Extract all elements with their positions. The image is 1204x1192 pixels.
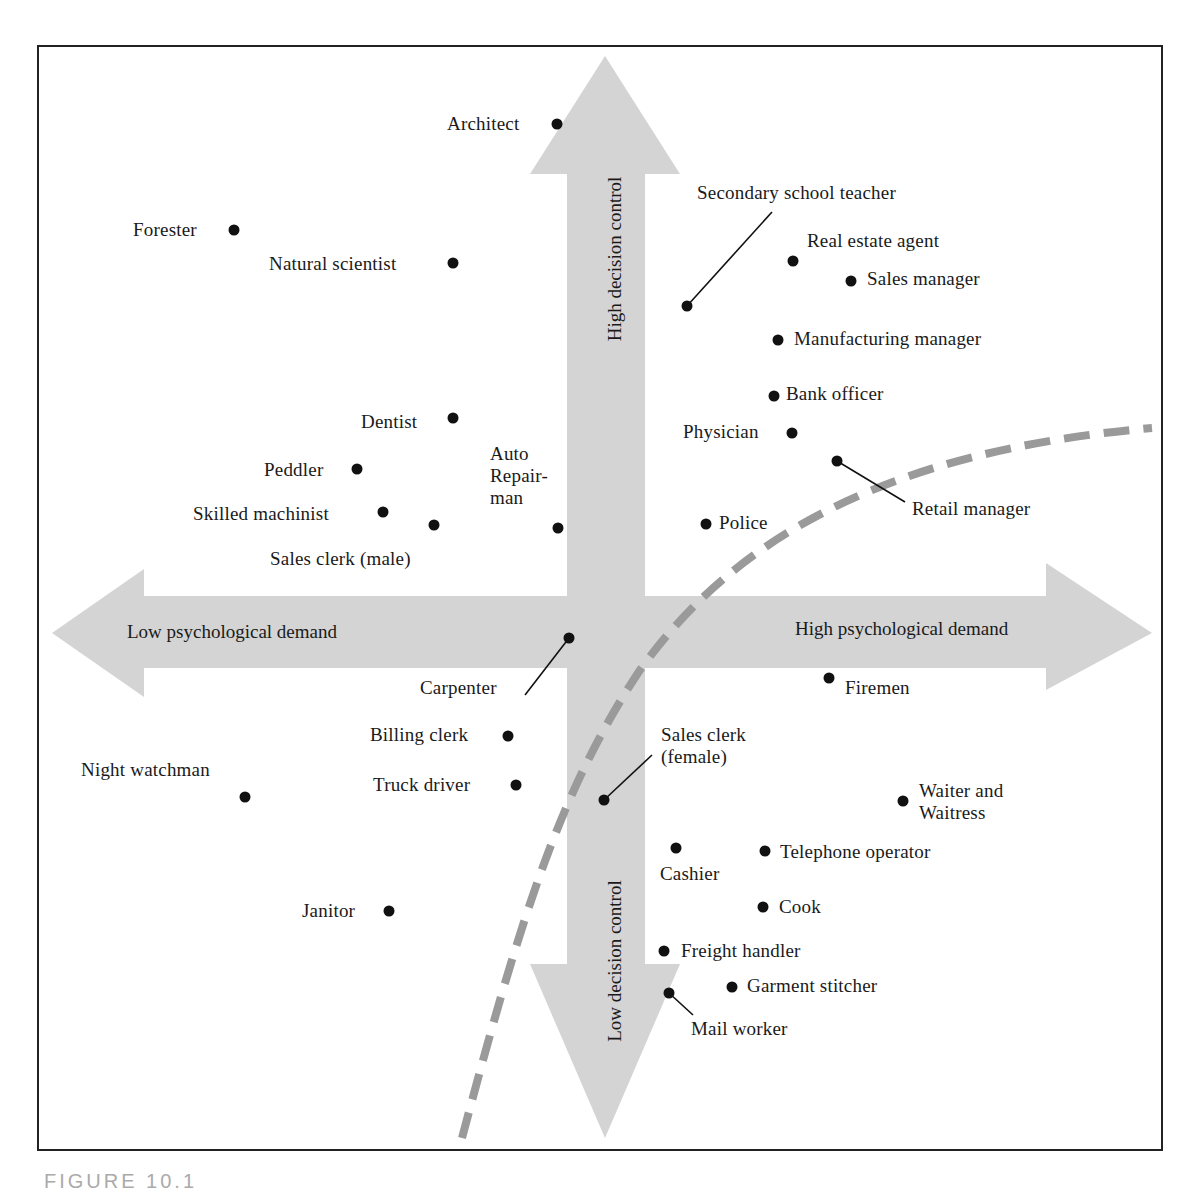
axis-label-low-decision-control: Low decision control (604, 861, 626, 1061)
label-cook: Cook (779, 896, 821, 918)
label-police: Police (719, 512, 768, 534)
point-janitor (384, 906, 395, 917)
point-police (701, 519, 712, 530)
label-architect: Architect (447, 113, 519, 135)
point-sales-clerk-male (429, 520, 440, 531)
label-peddler: Peddler (264, 459, 323, 481)
label-billing-clerk: Billing clerk (370, 724, 468, 746)
point-mail-worker (664, 988, 675, 999)
label-manufacturing-manager: Manufacturing manager (794, 328, 981, 350)
point-waiter-and-waitress (898, 796, 909, 807)
point-firemen (824, 673, 835, 684)
label-firemen: Firemen (845, 677, 910, 699)
label-auto-repair-man: Auto Repair- man (490, 443, 548, 509)
point-architect (552, 119, 563, 130)
point-sales-clerk-female (599, 795, 610, 806)
point-garment-stitcher (727, 982, 738, 993)
label-night-watchman: Night watchman (81, 759, 210, 781)
label-skilled-machinist: Skilled machinist (193, 503, 329, 525)
point-cashier (671, 843, 682, 854)
point-freight-handler (659, 946, 670, 957)
label-retail-manager: Retail manager (912, 498, 1030, 520)
label-waiter-and-waitress: Waiter and Waitress (919, 780, 1003, 824)
label-garment-stitcher: Garment stitcher (747, 975, 877, 997)
label-janitor: Janitor (302, 900, 355, 922)
label-freight-handler: Freight handler (681, 940, 801, 962)
point-sales-manager (846, 276, 857, 287)
point-retail-manager (832, 456, 843, 467)
label-forester: Forester (133, 219, 197, 241)
label-mail-worker: Mail worker (691, 1018, 788, 1040)
point-truck-driver (511, 780, 522, 791)
label-telephone-operator: Telephone operator (780, 841, 931, 863)
label-physician: Physician (683, 421, 759, 443)
point-billing-clerk (503, 731, 514, 742)
point-night-watchman (240, 792, 251, 803)
label-truck-driver: Truck driver (373, 774, 470, 796)
point-peddler (352, 464, 363, 475)
leader-line-secondary-school-teacher (687, 212, 772, 306)
point-dentist (448, 413, 459, 424)
label-natural-scientist: Natural scientist (269, 253, 396, 275)
point-telephone-operator (760, 846, 771, 857)
point-forester (229, 225, 240, 236)
label-sales-manager: Sales manager (867, 268, 980, 290)
label-secondary-school-teacher: Secondary school teacher (697, 182, 896, 204)
label-sales-clerk-male: Sales clerk (male) (270, 548, 411, 570)
point-secondary-school-teacher (682, 301, 693, 312)
point-auto-repair-man (553, 523, 564, 534)
point-cook (758, 902, 769, 913)
label-sales-clerk-female: Sales clerk (female) (661, 724, 746, 768)
point-carpenter (564, 633, 575, 644)
axis-label-low-psychological-demand: Low psychological demand (127, 621, 337, 643)
label-cashier: Cashier (660, 863, 719, 885)
point-manufacturing-manager (773, 335, 784, 346)
point-skilled-machinist (378, 507, 389, 518)
point-bank-officer (769, 391, 780, 402)
point-natural-scientist (448, 258, 459, 269)
label-dentist: Dentist (361, 411, 417, 433)
label-carpenter: Carpenter (420, 677, 497, 699)
label-real-estate-agent: Real estate agent (807, 230, 939, 252)
axis-label-high-psychological-demand: High psychological demand (795, 618, 1008, 640)
label-bank-officer: Bank officer (786, 383, 884, 405)
point-real-estate-agent (788, 256, 799, 267)
point-physician (787, 428, 798, 439)
axis-label-high-decision-control: High decision control (604, 159, 626, 359)
figure-caption: FIGURE 10.1 (44, 1170, 197, 1192)
